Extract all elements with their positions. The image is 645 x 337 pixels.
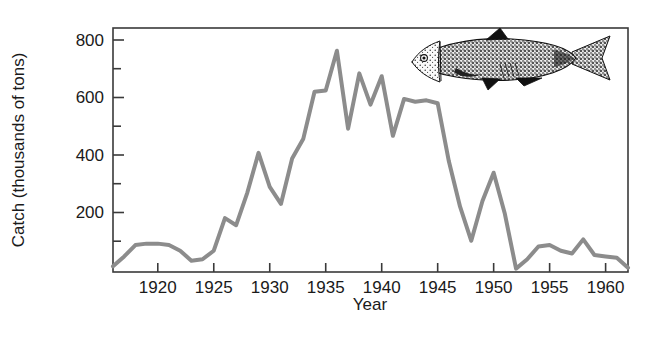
x-tick-label: 1945 (419, 278, 457, 297)
x-tick-label: 1925 (195, 278, 233, 297)
y-tick-label: 400 (76, 146, 104, 165)
x-axis-title: Year (353, 295, 388, 314)
x-tick-label: 1920 (139, 278, 177, 297)
x-tick-label: 1930 (251, 278, 289, 297)
y-tick-labels: 800 600 400 200 (76, 31, 104, 222)
x-ticks (158, 263, 606, 272)
catch-data-line (113, 51, 628, 269)
y-tick-label: 600 (76, 88, 104, 107)
catch-line-chart: Catch (thousands of tons) 800 600 400 20… (0, 0, 645, 337)
x-tick-label: 1960 (587, 278, 625, 297)
y-tick-label: 200 (76, 203, 104, 222)
figure-sardine-catch: Catch (thousands of tons) 800 600 400 20… (0, 0, 645, 337)
x-tick-label: 1955 (531, 278, 569, 297)
y-axis-title: Catch (thousands of tons) (9, 53, 28, 248)
sardine-fish-illustration (412, 28, 610, 90)
y-tick-label: 800 (76, 31, 104, 50)
x-tick-label: 1950 (475, 278, 513, 297)
x-tick-label: 1935 (307, 278, 345, 297)
